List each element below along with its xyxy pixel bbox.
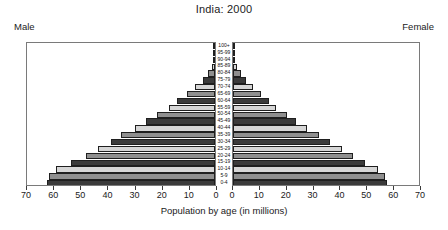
bar-segment	[233, 91, 261, 97]
axis-tick-label: 20	[157, 190, 167, 200]
bar-segment	[213, 43, 215, 49]
age-band-label: 50-54	[216, 111, 232, 116]
table-row	[27, 84, 215, 91]
table-row	[27, 57, 215, 64]
table-row	[233, 118, 419, 125]
bar-segment	[233, 57, 235, 63]
table-row	[233, 146, 419, 153]
axis-tick-label: 0	[229, 190, 234, 200]
age-band-label: 85-89	[216, 63, 232, 68]
bar-segment	[135, 125, 215, 131]
table-row	[233, 84, 419, 91]
table-row	[27, 77, 215, 84]
bar-segment	[121, 132, 215, 138]
bar-segment	[233, 112, 287, 118]
table-row	[233, 105, 419, 112]
table-row	[27, 105, 215, 112]
female-bar-group	[233, 43, 419, 185]
axis-tick-label: 20	[281, 190, 291, 200]
table-row	[27, 64, 215, 71]
axis-tick-label: 30	[130, 190, 140, 200]
age-band-label: 65-69	[216, 91, 232, 96]
female-x-axis: 010203040506070	[232, 186, 420, 206]
bar-segment	[208, 70, 215, 76]
axis-tick-label: 50	[75, 190, 85, 200]
table-row	[27, 98, 215, 105]
age-band-label: 25-29	[216, 146, 232, 151]
table-row	[27, 146, 215, 153]
age-band-label: 30-34	[216, 139, 232, 144]
bar-segment	[195, 84, 215, 90]
age-band-labels: 0-45-910-1415-1920-2425-2930-3435-3940-4…	[216, 42, 232, 186]
bar-segment	[233, 139, 330, 145]
bar-segment	[212, 64, 215, 70]
age-band-label: 80-84	[216, 70, 232, 75]
axis-tick-label: 70	[415, 190, 425, 200]
bar-segment	[233, 146, 342, 152]
male-bar-group	[27, 43, 215, 185]
bar-segment	[233, 160, 365, 166]
bar-segment	[233, 166, 378, 172]
male-side-label: Male	[14, 21, 35, 32]
age-band-label: 45-49	[216, 118, 232, 123]
population-pyramid-chart: India: 2000 Male Female 0-45-910-1415-19…	[0, 0, 448, 230]
axis-tick-label: 30	[308, 190, 318, 200]
age-band-label: 20-24	[216, 153, 232, 158]
bar-segment	[213, 50, 215, 56]
age-band-label: 95-99	[216, 50, 232, 55]
female-plot-panel	[232, 42, 420, 186]
bar-segment	[49, 173, 215, 179]
axis-tick-label: 60	[48, 190, 58, 200]
bar-segment	[233, 64, 237, 70]
table-row	[27, 118, 215, 125]
female-side-label: Female	[402, 21, 434, 32]
bar-segment	[71, 160, 215, 166]
axis-tick-label: 60	[388, 190, 398, 200]
table-row	[233, 112, 419, 119]
table-row	[27, 166, 215, 173]
bar-segment	[98, 146, 215, 152]
male-plot-panel	[26, 42, 216, 186]
bar-segment	[233, 132, 319, 138]
age-band-label: 10-14	[216, 166, 232, 171]
bar-segment	[86, 153, 215, 159]
axis-tick-label: 50	[361, 190, 371, 200]
table-row	[233, 70, 419, 77]
bar-segment	[233, 43, 235, 49]
axis-tick-label: 0	[213, 190, 218, 200]
table-row	[233, 160, 419, 167]
age-band-label: 40-44	[216, 125, 232, 130]
table-row	[27, 139, 215, 146]
table-row	[233, 77, 419, 84]
table-row	[233, 125, 419, 132]
bar-segment	[157, 112, 215, 118]
table-row	[27, 50, 215, 57]
table-row	[27, 70, 215, 77]
table-row	[233, 166, 419, 173]
bar-segment	[233, 118, 296, 124]
bar-segment	[233, 98, 269, 104]
table-row	[233, 173, 419, 180]
bar-segment	[169, 105, 215, 111]
axis-tick-label: 40	[334, 190, 344, 200]
table-row	[233, 98, 419, 105]
bar-segment	[233, 84, 253, 90]
bar-segment	[233, 50, 235, 56]
bar-segment	[233, 105, 276, 111]
age-band-label: 70-74	[216, 84, 232, 89]
bar-segment	[146, 118, 215, 124]
table-row	[27, 112, 215, 119]
x-axis-title: Population by age (in millions)	[0, 205, 448, 216]
bar-segment	[111, 139, 216, 145]
bar-segment	[177, 98, 215, 104]
bar-segment	[233, 77, 246, 83]
age-band-label: 15-19	[216, 159, 232, 164]
age-band-label: 0-4	[216, 180, 232, 185]
age-band-label: 35-39	[216, 132, 232, 137]
table-row	[27, 160, 215, 167]
table-row	[233, 139, 419, 146]
table-row	[27, 91, 215, 98]
bar-segment	[56, 166, 215, 172]
bar-segment	[233, 70, 241, 76]
bar-segment	[233, 173, 385, 179]
